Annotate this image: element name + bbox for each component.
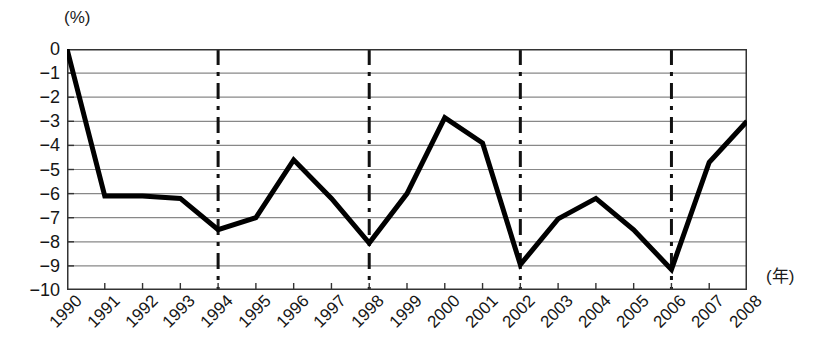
data-series-line — [67, 49, 747, 270]
x-tick-label: 2007 — [688, 292, 727, 331]
x-tick-label: 2006 — [651, 292, 690, 331]
y-axis-unit-label: (%) — [64, 8, 90, 28]
y-tick-label: −5 — [39, 161, 60, 179]
x-tick-label: 1992 — [122, 292, 161, 331]
x-tick-label: 1999 — [386, 292, 425, 331]
x-tick-label: 1991 — [84, 292, 123, 331]
x-tick-label: 1994 — [197, 292, 236, 331]
plot-area — [67, 49, 747, 290]
y-tick-label: −9 — [39, 257, 60, 275]
x-tick-label: 2004 — [575, 292, 614, 331]
y-tick-label: −7 — [39, 209, 60, 227]
y-axis-tick-labels: 0−1−2−3−4−5−6−7−8−9−10 — [0, 49, 64, 290]
y-tick-label: −6 — [39, 185, 60, 203]
x-tick-label: 1997 — [311, 292, 350, 331]
x-tick-label: 2002 — [500, 292, 539, 331]
x-axis-tick-labels: 1990199119921993199419951996199719981999… — [67, 292, 767, 362]
x-tick-label: 1993 — [160, 292, 199, 331]
gridlines — [67, 73, 747, 266]
x-axis-unit-label: (年) — [766, 262, 794, 287]
x-tick-label: 2005 — [613, 292, 652, 331]
x-tick-label: 1996 — [273, 292, 312, 331]
y-tick-label: 0 — [50, 40, 60, 58]
x-tick-label: 2000 — [424, 292, 463, 331]
x-tick-label: 2008 — [726, 292, 765, 331]
x-tick-label: 2001 — [462, 292, 501, 331]
y-tick-label: −2 — [39, 88, 60, 106]
y-tick-label: −10 — [29, 281, 60, 299]
chart-figure: (%) (年) 0−1−2−3−4−5−6−7−8−9−10 199019911… — [0, 0, 822, 362]
y-tick-label: −4 — [39, 136, 60, 154]
x-tick-label: 1998 — [348, 292, 387, 331]
y-tick-label: −1 — [39, 64, 60, 82]
y-tick-label: −8 — [39, 233, 60, 251]
chart-canvas — [67, 49, 747, 290]
x-tick-label: 2003 — [537, 292, 576, 331]
x-tick-label: 1995 — [235, 292, 274, 331]
y-tick-label: −3 — [39, 112, 60, 130]
